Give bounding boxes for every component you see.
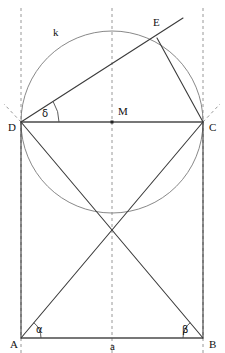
dashed-tangent-ray-c [203, 104, 220, 122]
geometry-diagram: A B C D E M k a α β δ [0, 0, 225, 353]
point-label-a: A [10, 338, 18, 350]
angle-arc-delta [53, 102, 59, 122]
angle-label-delta: δ [42, 108, 48, 119]
diagram-canvas: A B C D E M k a α β δ [0, 0, 225, 353]
segment-ec [157, 38, 203, 122]
point-label-m: M [118, 105, 128, 117]
point-label-d: D [8, 121, 16, 133]
segment-label-a: a [110, 340, 115, 352]
center-point-marker-m [111, 121, 114, 124]
circle-label-k: k [53, 26, 59, 38]
angle-label-beta: β [182, 324, 188, 335]
angle-label-alpha: α [36, 324, 43, 335]
point-label-c: C [209, 121, 216, 133]
dashed-tangent-ray-d [4, 104, 21, 122]
segment-de-extended [21, 18, 183, 122]
point-label-e: E [153, 16, 160, 28]
point-label-b: B [209, 338, 216, 350]
